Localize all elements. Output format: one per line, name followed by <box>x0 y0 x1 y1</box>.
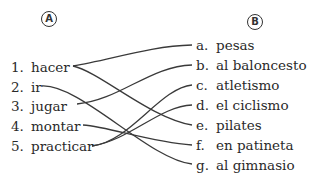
option-letter: g. <box>196 157 216 173</box>
option-a: a.pesas <box>196 37 255 53</box>
option-letter: e. <box>196 117 216 133</box>
line-3-b <box>77 65 192 104</box>
option-text: al baloncesto <box>216 57 307 73</box>
item-number: 3. <box>11 98 31 114</box>
line-5-d <box>92 105 192 146</box>
item-text: ir <box>31 79 42 95</box>
option-text: atletismo <box>216 77 279 93</box>
option-text: en patineta <box>216 137 294 153</box>
option-f: f.en patineta <box>196 137 294 153</box>
line-1-e <box>73 66 192 125</box>
option-letter: d. <box>196 97 216 113</box>
item-3: 3.jugar <box>11 98 67 114</box>
item-number: 2. <box>11 79 31 95</box>
option-letter: a. <box>196 37 216 53</box>
item-number: 4. <box>11 118 31 134</box>
option-letter: c. <box>196 77 216 93</box>
item-text: jugar <box>31 98 67 114</box>
option-c: c.atletismo <box>196 77 279 93</box>
option-text: pesas <box>216 37 255 53</box>
option-text: al gimnasio <box>216 157 295 173</box>
option-text: pilates <box>216 117 262 133</box>
item-text: practicar <box>31 138 94 154</box>
option-d: d.el ciclismo <box>196 97 289 113</box>
item-number: 5. <box>11 138 31 154</box>
item-4: 4.montar <box>11 118 81 134</box>
option-text: el ciclismo <box>216 97 289 113</box>
item-text: hacer <box>31 59 70 75</box>
item-5: 5.practicar <box>11 138 94 154</box>
item-1: 1.hacer <box>11 59 70 75</box>
item-number: 1. <box>11 59 31 75</box>
item-text: montar <box>31 118 81 134</box>
option-b: b.al baloncesto <box>196 57 307 73</box>
option-letter: b. <box>196 57 216 73</box>
option-e: e.pilates <box>196 117 262 133</box>
option-g: g.al gimnasio <box>196 157 295 173</box>
item-2: 2.ir <box>11 79 42 95</box>
line-1-a <box>73 45 192 66</box>
option-letter: f. <box>196 137 216 153</box>
